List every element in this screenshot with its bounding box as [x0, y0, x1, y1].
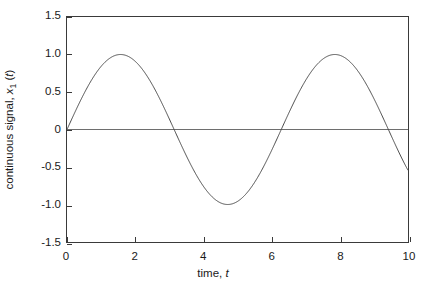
x-axis-title: time, t: [0, 268, 426, 280]
y-axis-tick: [67, 54, 72, 55]
plot-svg: [67, 17, 408, 242]
x-axis-tick: [67, 237, 68, 242]
y-axis-title-prefix: continuous signal,: [3, 94, 15, 189]
x-axis-title-variable: t: [225, 267, 228, 279]
x-axis-tick: [272, 237, 273, 242]
plot-frame: [66, 16, 409, 243]
x-axis-tick: [341, 237, 342, 242]
y-axis-tick: [67, 92, 72, 93]
y-axis-title-paren-close: ): [3, 70, 15, 74]
plot-area: [67, 17, 408, 242]
x-axis-tick: [410, 237, 411, 242]
chart-figure: 1.51.00.50-0.5-1.0-1.5 0246810 time, t c…: [0, 0, 426, 289]
x-axis-tick: [204, 237, 205, 242]
x-axis-tick-label: 4: [183, 251, 223, 263]
x-axis-tick-label: 10: [389, 251, 426, 263]
y-axis-tick: [67, 130, 72, 131]
y-axis-title: continuous signal, x1 (t): [4, 16, 22, 243]
x-axis-tick-label: 6: [252, 251, 292, 263]
y-axis-title-subscript: 1: [8, 84, 18, 89]
y-axis-tick: [67, 17, 72, 18]
x-axis-tick: [135, 237, 136, 242]
x-axis-tick-label: 8: [320, 251, 360, 263]
y-axis-title-argument: t: [3, 73, 15, 76]
y-axis-tick: [67, 206, 72, 207]
x-axis-tick-label: 2: [115, 251, 155, 263]
y-axis-tick: [67, 168, 72, 169]
y-axis-title-paren-open: (: [3, 77, 15, 84]
y-axis-title-variable: x: [3, 88, 15, 94]
y-axis-tick: [67, 244, 72, 245]
x-axis-tick-label: 0: [46, 251, 86, 263]
x-axis-title-prefix: time,: [197, 267, 225, 279]
